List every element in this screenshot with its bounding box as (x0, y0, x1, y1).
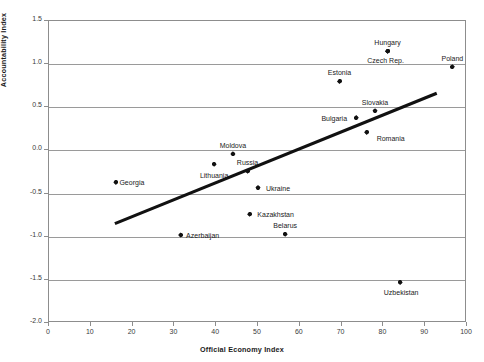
data-point-label: Romania (377, 134, 405, 141)
y-tick-mark (44, 20, 48, 21)
data-point-label: Kazakhstan (257, 211, 294, 218)
x-tick-label: 90 (404, 328, 444, 335)
x-tick-mark (341, 322, 342, 326)
data-point-label: Ukraine (266, 185, 290, 192)
x-tick-label: 80 (362, 328, 402, 335)
x-tick-label: 40 (195, 328, 235, 335)
data-point (354, 116, 358, 120)
x-tick-label: 100 (446, 328, 484, 335)
y-tick-mark (44, 236, 48, 237)
data-point (338, 79, 342, 83)
data-point-label: Uzbekistan (384, 289, 419, 296)
y-tick-mark (44, 63, 48, 64)
y-tick-label: -1.0 (2, 231, 42, 238)
data-point (398, 280, 402, 284)
data-point (365, 130, 369, 134)
data-point-label: Slovakia (362, 98, 388, 105)
x-tick-label: 20 (112, 328, 152, 335)
data-point-label: Hungary (374, 39, 400, 46)
data-point-label: Azerbaijan (186, 231, 219, 238)
y-tick-label: 1.5 (2, 15, 42, 22)
y-tick-label: -1.5 (2, 274, 42, 281)
data-point (450, 65, 454, 69)
y-axis-title: Accountability Index (0, 0, 8, 120)
x-tick-mark (299, 322, 300, 326)
data-point (256, 186, 260, 190)
x-tick-label: 10 (70, 328, 110, 335)
data-point (231, 152, 235, 156)
x-tick-label: 30 (153, 328, 193, 335)
data-point-label: Lithuania (200, 172, 228, 179)
gridline (49, 280, 465, 281)
data-point (212, 162, 216, 166)
data-point (373, 109, 377, 113)
scatter-chart: GeorgiaAzerbaijanLithuaniaMoldovaRussiaK… (0, 0, 484, 362)
y-tick-label: -2.0 (2, 317, 42, 324)
gridline (49, 194, 465, 195)
data-point-label: Georgia (119, 179, 144, 186)
x-tick-mark (173, 322, 174, 326)
gridline (49, 107, 465, 108)
y-tick-label: -0.5 (2, 188, 42, 195)
data-point-label: Estonia (328, 69, 351, 76)
data-point-label: Bulgaria (321, 114, 347, 121)
y-tick-mark (44, 279, 48, 280)
x-tick-mark (215, 322, 216, 326)
y-tick-mark (44, 106, 48, 107)
data-point-label: Poland (441, 54, 463, 61)
x-tick-mark (132, 322, 133, 326)
gridline (49, 64, 465, 65)
data-point (283, 232, 287, 236)
data-point-label: Russia (237, 159, 258, 166)
data-point-label: Moldova (220, 141, 246, 148)
x-tick-mark (48, 322, 49, 326)
x-tick-label: 70 (321, 328, 361, 335)
data-point (179, 233, 183, 237)
data-point-label: Belarus (273, 222, 297, 229)
y-tick-label: 1.0 (2, 58, 42, 65)
gridline (49, 150, 465, 151)
y-tick-label: 0.5 (2, 101, 42, 108)
x-tick-label: 0 (28, 328, 68, 335)
x-tick-label: 50 (237, 328, 277, 335)
x-tick-mark (257, 322, 258, 326)
data-point (248, 212, 252, 216)
y-tick-label: 0.0 (2, 144, 42, 151)
data-point (246, 169, 250, 173)
gridline (49, 237, 465, 238)
x-tick-mark (90, 322, 91, 326)
y-tick-mark (44, 193, 48, 194)
data-point-label: Czech Rep. (367, 57, 404, 64)
x-tick-mark (382, 322, 383, 326)
x-tick-mark (424, 322, 425, 326)
x-tick-label: 60 (279, 328, 319, 335)
plot-area: GeorgiaAzerbaijanLithuaniaMoldovaRussiaK… (48, 20, 466, 322)
x-tick-mark (466, 322, 467, 326)
data-point (114, 180, 118, 184)
x-axis-title: Official Economy Index (0, 345, 484, 354)
y-tick-mark (44, 149, 48, 150)
data-point (386, 49, 390, 53)
